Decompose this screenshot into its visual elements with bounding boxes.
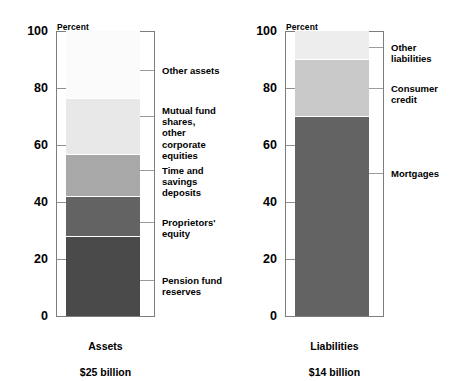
y-tick-40: 40 xyxy=(263,196,277,209)
assets-callout-pension-fund-reserves: Pension fund reserves xyxy=(162,275,222,297)
liabilities-segment-mortgages[interactable] xyxy=(295,117,369,317)
y-tick-80: 80 xyxy=(34,82,48,95)
assets-segment-proprietors-equity[interactable] xyxy=(66,197,140,237)
assets-gridline-80 xyxy=(57,88,66,89)
assets-leader-mutual-fund xyxy=(140,116,154,117)
assets-segment-other-assets[interactable] xyxy=(66,31,140,99)
assets-gridline-40 xyxy=(57,202,66,203)
assets-callout-time-and-savings-deposits: Time and savings deposits xyxy=(162,165,230,199)
y-tick-0: 0 xyxy=(270,310,277,323)
liabilities-callout-consumer-credit: Consumer credit xyxy=(391,83,438,105)
assets-caption-line2: $25 billion xyxy=(56,366,155,379)
assets-stacked-bar xyxy=(66,31,140,316)
assets-segment-time-and-savings-deposits[interactable] xyxy=(66,155,140,197)
assets-caption: Assets $25 billion xyxy=(56,327,155,381)
y-tick-20: 20 xyxy=(263,253,277,266)
liabilities-caption-line1: Liabilities xyxy=(285,340,384,353)
liabilities-callout-other-liabilities: Other liabilities xyxy=(391,42,432,64)
liabilities-y-axis-labels: 100 80 60 40 20 0 xyxy=(247,0,277,371)
assets-callout-other-assets: Other assets xyxy=(162,65,220,76)
assets-segment-mutual-fund-shares[interactable] xyxy=(66,99,140,155)
assets-segment-pension-fund-reserves[interactable] xyxy=(66,237,140,316)
assets-leader-other-assets xyxy=(140,70,154,71)
assets-leader-time-savings xyxy=(140,170,154,171)
liabilities-stacked-bar xyxy=(295,31,369,316)
assets-panel: 100 80 60 40 20 0 Percent xyxy=(0,0,230,371)
assets-callout-proprietors-equity: Proprietors' equity xyxy=(162,217,230,239)
y-tick-80: 80 xyxy=(263,82,277,95)
liabilities-callout-mortgages: Mortgages xyxy=(391,168,439,179)
liabilities-caption-line2: $14 billion xyxy=(285,366,384,379)
liabilities-segment-other-liabilities[interactable] xyxy=(295,31,369,60)
y-tick-40: 40 xyxy=(34,196,48,209)
assets-y-axis-labels: 100 80 60 40 20 0 xyxy=(18,0,48,371)
liabilities-gridline-60 xyxy=(286,145,295,146)
liabilities-gridline-20 xyxy=(286,259,295,260)
assets-callout-mutual-fund-shares: Mutual fund shares, other corporate equi… xyxy=(162,105,230,161)
y-tick-100: 100 xyxy=(27,25,48,38)
liabilities-gridline-80 xyxy=(286,88,295,89)
y-tick-100: 100 xyxy=(256,25,277,38)
y-tick-0: 0 xyxy=(41,310,48,323)
assets-leader-proprietors xyxy=(140,222,154,223)
liabilities-panel: 100 80 60 40 20 0 Percent Other liabilit… xyxy=(221,0,451,371)
liabilities-leader-consumer-credit xyxy=(369,88,383,89)
liabilities-gridline-40 xyxy=(286,202,295,203)
liabilities-leader-mortgages xyxy=(369,173,383,174)
liabilities-segment-consumer-credit[interactable] xyxy=(295,60,369,117)
y-tick-20: 20 xyxy=(34,253,48,266)
assets-leader-pension xyxy=(140,280,154,281)
liabilities-caption: Liabilities $14 billion xyxy=(285,327,384,381)
liabilities-leader-other-liabilities xyxy=(369,47,383,48)
y-tick-60: 60 xyxy=(34,139,48,152)
assets-caption-line1: Assets xyxy=(56,340,155,353)
assets-gridline-20 xyxy=(57,259,66,260)
y-tick-60: 60 xyxy=(263,139,277,152)
assets-gridline-60 xyxy=(57,145,66,146)
